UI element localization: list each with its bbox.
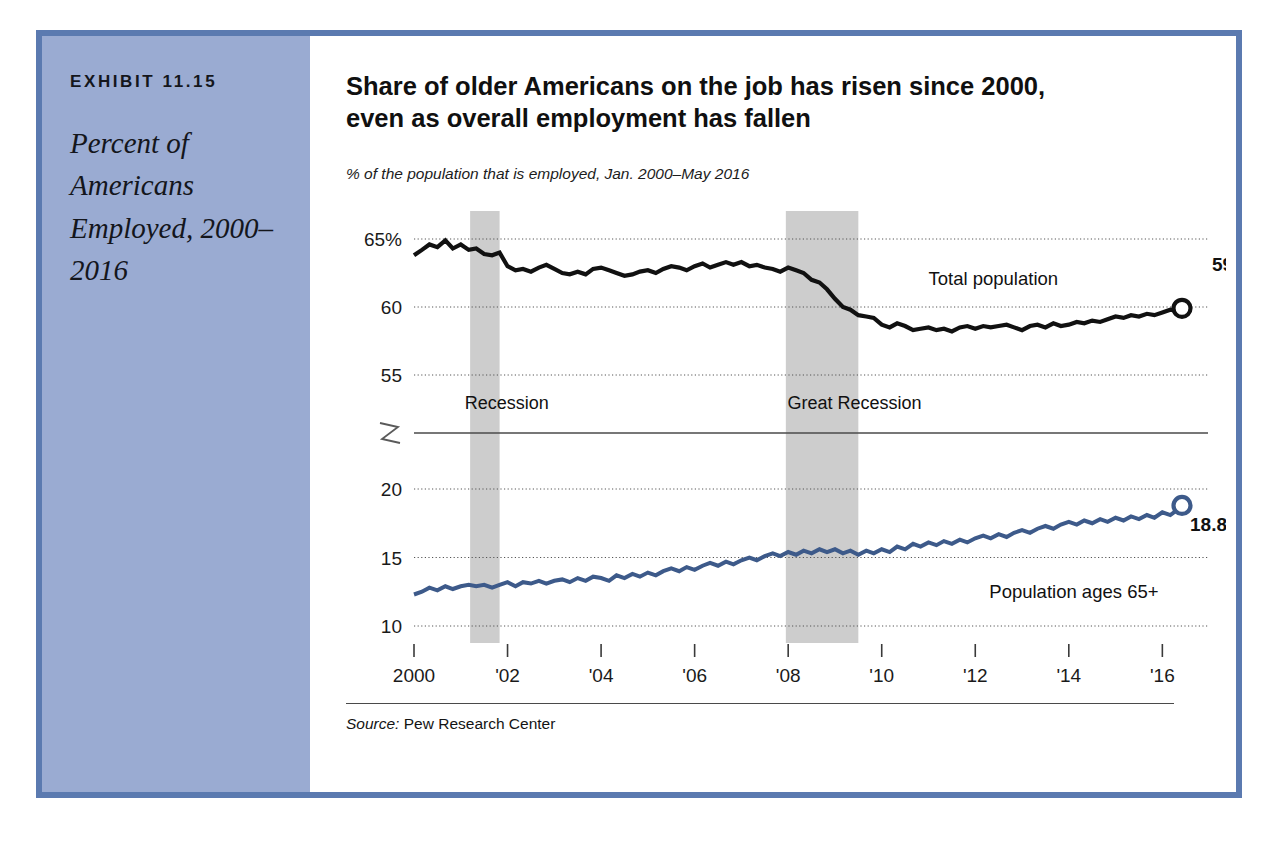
annotation-great-recession-label: Great Recession bbox=[788, 393, 922, 413]
x-tick-label-04: '04 bbox=[589, 665, 614, 686]
x-tick-label-02: '02 bbox=[495, 665, 520, 686]
y-tick-label-60: 60 bbox=[381, 297, 402, 318]
axis-break-icon bbox=[380, 423, 400, 443]
x-tick-label-08: '08 bbox=[776, 665, 801, 686]
exhibit-frame: EXHIBIT 11.15 Percent of Americans Emplo… bbox=[36, 30, 1242, 798]
x-tick-label-12: '12 bbox=[963, 665, 988, 686]
x-tick-label-2000: 2000 bbox=[393, 665, 435, 686]
x-tick-label-06: '06 bbox=[682, 665, 707, 686]
line-chart-svg: 65%6055201510 2000'02'04'06'08'10'12'14'… bbox=[346, 201, 1226, 701]
y-tick-label-65%: 65% bbox=[364, 229, 402, 250]
annotation-recession-label: Recession bbox=[465, 393, 549, 413]
series-label-ages-65-plus: Population ages 65+ bbox=[989, 581, 1158, 602]
chart-plot-area: 65%6055201510 2000'02'04'06'08'10'12'14'… bbox=[346, 201, 1226, 701]
source-line: Source: Pew Research Center bbox=[346, 715, 1196, 733]
source-divider bbox=[346, 703, 1174, 704]
y-tick-label-10: 10 bbox=[381, 616, 402, 637]
series-end-marker-total-population bbox=[1174, 300, 1191, 317]
y-tick-label-15: 15 bbox=[381, 547, 402, 568]
y-tick-label-55: 55 bbox=[381, 365, 402, 386]
recession-bands-group bbox=[470, 211, 858, 643]
x-axis-group: 2000'02'04'06'08'10'12'14'16 bbox=[393, 644, 1175, 686]
x-tick-label-10: '10 bbox=[869, 665, 894, 686]
chart-panel: Share of older Americans on the job has … bbox=[310, 36, 1236, 792]
recession-band-2 bbox=[786, 211, 858, 643]
recession-band-1 bbox=[470, 211, 499, 643]
series-end-marker-ages-65-plus bbox=[1174, 497, 1191, 514]
exhibit-caption-panel: EXHIBIT 11.15 Percent of Americans Emplo… bbox=[42, 36, 310, 792]
source-prefix: Source: bbox=[346, 715, 399, 732]
chart-subtitle: % of the population that is employed, Ja… bbox=[346, 165, 1196, 183]
y-tick-label-20: 20 bbox=[381, 479, 402, 500]
y-axis-labels-group: 65%6055201510 bbox=[364, 229, 402, 637]
x-tick-label-16: '16 bbox=[1150, 665, 1175, 686]
end-value-ages-65-plus: 18.8% bbox=[1190, 514, 1226, 535]
x-tick-label-14: '14 bbox=[1056, 665, 1081, 686]
source-name: Pew Research Center bbox=[404, 715, 556, 732]
end-value-total-population: 59.9% bbox=[1212, 254, 1226, 275]
exhibit-caption-text: Percent of Americans Employed, 2000–2016 bbox=[70, 122, 284, 291]
exhibit-number-label: EXHIBIT 11.15 bbox=[70, 72, 284, 92]
series-label-total-population: Total population bbox=[928, 268, 1058, 289]
chart-title: Share of older Americans on the job has … bbox=[346, 70, 1086, 135]
